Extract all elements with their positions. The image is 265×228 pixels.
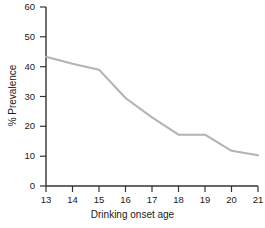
y-tick-label-0: 0 — [13, 181, 35, 191]
x-tick-label-20: 20 — [222, 195, 242, 205]
data-series-line — [46, 57, 258, 155]
x-tick-label-14: 14 — [63, 195, 83, 205]
x-tick-label-18: 18 — [169, 195, 189, 205]
x-tick-label-17: 17 — [142, 195, 162, 205]
x-tick-marks — [46, 186, 258, 192]
line-chart: 60 50 40 30 20 10 0 13 14 15 16 17 18 19… — [0, 0, 265, 228]
x-tick-label-15: 15 — [89, 195, 109, 205]
y-tick-label-60: 60 — [13, 2, 35, 12]
x-tick-label-16: 16 — [116, 195, 136, 205]
x-tick-label-21: 21 — [248, 195, 265, 205]
x-tick-label-13: 13 — [36, 195, 56, 205]
x-tick-label-19: 19 — [195, 195, 215, 205]
y-tick-marks — [40, 7, 46, 186]
y-axis-title: % Prevalence — [7, 57, 18, 135]
x-axis-title: Drinking onset age — [0, 209, 265, 220]
y-tick-label-50: 50 — [13, 32, 35, 42]
y-tick-label-10: 10 — [13, 151, 35, 161]
